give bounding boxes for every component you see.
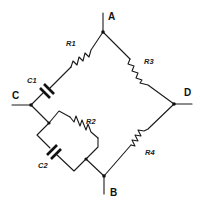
label-r4: R4: [145, 148, 155, 157]
resistor-r4: [131, 104, 174, 146]
label-c1: C1: [27, 76, 37, 85]
label-c2: C2: [38, 161, 48, 170]
label-r2: R2: [86, 117, 96, 126]
node-c-dot: [29, 103, 33, 107]
junction-c2-r2-right: [84, 157, 87, 160]
node-label-c: C: [12, 90, 19, 101]
junction-c2-r2-left: [47, 121, 50, 124]
node-b-dot: [102, 174, 106, 178]
node-label-a: A: [108, 11, 115, 22]
node-a-dot: [101, 30, 105, 34]
node-d-dot: [172, 102, 176, 106]
label-r1: R1: [66, 39, 76, 48]
branch-a-d: [103, 32, 174, 104]
resistor-r1: [71, 32, 103, 67]
node-label-b: B: [110, 187, 117, 198]
node-label-d: D: [184, 87, 191, 98]
branch-b-d: [104, 104, 174, 176]
label-r3: R3: [144, 57, 154, 66]
circuit-diagram: A B C D R1 C1 R3 R4 R2 C2: [0, 0, 202, 211]
